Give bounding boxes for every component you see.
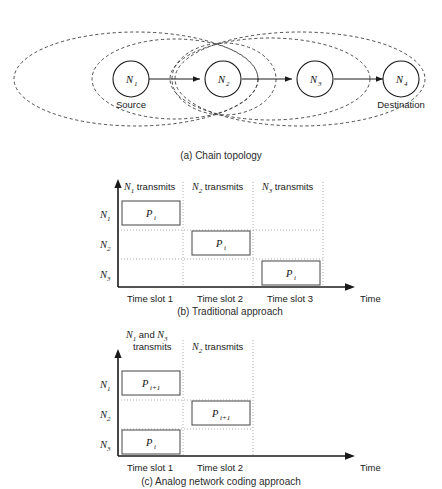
panel-c-packet-n2-slot2[interactable]: P i+1	[192, 401, 250, 425]
node-sublabel-n1: 1	[134, 80, 138, 88]
panel-b-slot-label-1: Time slot 1	[127, 293, 173, 304]
packet-sublabel: i	[294, 274, 296, 282]
node-sublabel-n3: 3	[317, 80, 322, 88]
arrowhead-n2-n3	[285, 76, 292, 82]
node-role-destination: Destination	[377, 99, 425, 110]
panel-b-header-slot1-text: transmits	[134, 181, 175, 192]
panel-b-slot-label-3: Time slot 3	[267, 293, 313, 304]
panel-b-header-slot2-text: transmits	[202, 181, 243, 192]
panel-b-packet-n1-slot1[interactable]: P i	[122, 201, 180, 225]
panel-b-header-slot3: N3 transmits	[261, 181, 314, 195]
panel-b-row-label-n2: N2	[99, 239, 111, 253]
panel-c-header-slot1-line2: transmits	[133, 341, 172, 352]
arrowhead-n1-n2	[193, 76, 200, 82]
panel-c-analog-network-coding: N1 and N3 transmits N2 transmits N1 N2 N…	[0, 318, 442, 489]
panel-b-row-label-n1-sub: 1	[107, 215, 111, 223]
panel-c-row-label-n1-sub: 1	[107, 385, 111, 393]
packet-label: P	[145, 208, 153, 219]
panel-b-x-axis-label: Time	[360, 293, 381, 304]
packet-sublabel: i+1	[150, 384, 160, 392]
node-role-source: Source	[116, 99, 146, 110]
panel-a-caption: (a) Chain topology	[180, 150, 262, 161]
panel-c-column-headers: N1 and N3 transmits N2 transmits	[125, 329, 244, 355]
panel-b-row-label-n3: N3	[99, 269, 111, 283]
panel-c-row-label-n1: N1	[99, 379, 111, 393]
panel-c-caption: (c) Analog network coding approach	[141, 476, 301, 487]
panel-b-caption: (b) Traditional approach	[177, 306, 283, 317]
panel-b-row-label-n2-sub: 2	[107, 245, 111, 253]
packet-label: P	[141, 378, 149, 389]
topology-node-n4[interactable]: N 4 Destination	[377, 61, 425, 110]
packet-sublabel: i+1	[220, 414, 230, 422]
panel-b-row-labels: N1 N2 N3	[99, 209, 111, 283]
node-sublabel-n4: 4	[404, 80, 408, 88]
panel-c-row-labels: N1 N2 N3	[99, 379, 111, 453]
panel-c-row-label-n3-sub: 3	[106, 445, 111, 453]
panel-b-header-slot1: N1 transmits	[123, 181, 176, 195]
topology-node-n1[interactable]: N 1 Source	[113, 61, 149, 110]
panel-c-header-slot1-and: and	[136, 329, 157, 340]
figure-root: N 1 Source N 2 N 3 N 4 Destination (a) C…	[0, 0, 442, 489]
panel-b-slot-labels: Time slot 1 Time slot 2 Time slot 3 Time	[127, 293, 381, 304]
panel-c-packet-n1-slot1[interactable]: P i+1	[122, 371, 180, 395]
packet-sublabel: i	[224, 244, 226, 252]
panel-b-row-label-n1: N1	[99, 209, 111, 223]
panel-c-row-label-n3: N3	[99, 439, 111, 453]
node-label-n3: N	[309, 74, 318, 85]
topology-node-n2[interactable]: N 2	[205, 61, 241, 97]
panel-b-column-headers: N1 transmits N2 transmits N3 transmits	[123, 181, 314, 195]
panel-b-row-label-n3-sub: 3	[106, 275, 111, 283]
panel-c-slot-label-2: Time slot 2	[197, 462, 243, 473]
panel-c-slot-label-1: Time slot 1	[127, 462, 173, 473]
panel-c-x-axis-label: Time	[360, 462, 381, 473]
packet-sublabel: i	[154, 443, 156, 451]
node-label-n4: N	[395, 74, 404, 85]
packet-label: P	[145, 437, 153, 448]
topology-node-n3[interactable]: N 3	[297, 61, 333, 97]
node-label-n1: N	[125, 74, 134, 85]
panel-b-header-slot3-text: transmits	[272, 181, 313, 192]
node-label-n2: N	[217, 74, 226, 85]
panel-b-slot-label-2: Time slot 2	[197, 293, 243, 304]
packet-label: P	[215, 238, 223, 249]
chain-links	[149, 76, 383, 82]
panel-c-vertical-gridlines	[183, 340, 253, 456]
panel-b-packet-n2-slot2[interactable]: P i	[192, 231, 250, 255]
panel-b-packet-n3-slot3[interactable]: P i	[262, 261, 320, 285]
packet-sublabel: i	[154, 214, 156, 222]
panel-c-row-label-n2-sub: 2	[107, 415, 111, 423]
panel-c-row-label-n2: N2	[99, 409, 111, 423]
panel-c-x-axis-arrowhead	[345, 452, 355, 460]
panel-b-header-slot2: N2 transmits	[191, 181, 244, 195]
packet-label: P	[285, 268, 293, 279]
packet-label: P	[211, 408, 219, 419]
panel-c-header-slot2: N2 transmits	[191, 341, 244, 355]
node-sublabel-n2: 2	[226, 80, 230, 88]
panel-c-slot-labels: Time slot 1 Time slot 2 Time	[127, 462, 381, 473]
arrowhead-n3-n4	[376, 76, 383, 82]
panel-b-traditional-approach: N1 transmits N2 transmits N3 transmits N…	[0, 168, 442, 318]
panel-b-y-axis-arrowhead	[114, 179, 121, 188]
panel-c-packet-n3-slot1[interactable]: P i	[122, 430, 180, 454]
panel-c-header-slot2-text: transmits	[202, 341, 243, 352]
panel-a-chain-topology: N 1 Source N 2 N 3 N 4 Destination (a) C…	[0, 0, 442, 168]
panel-b-x-axis-arrowhead	[345, 283, 355, 291]
panel-c-y-axis-arrowhead	[114, 349, 121, 358]
